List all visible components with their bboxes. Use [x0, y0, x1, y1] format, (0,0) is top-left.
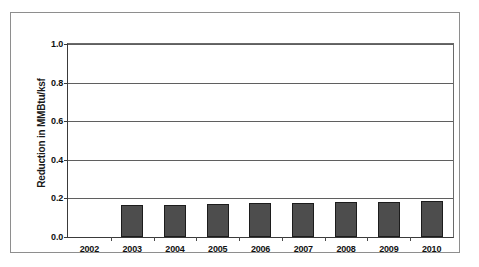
bar[interactable] [421, 201, 443, 237]
x-tick-mark [325, 237, 326, 241]
bar[interactable] [292, 203, 314, 237]
y-tick-label: 0.4 [51, 155, 63, 165]
bar-slot [410, 44, 453, 237]
bar-slot [68, 44, 111, 237]
bar-slot [367, 44, 410, 237]
bar-slot [282, 44, 325, 237]
bar[interactable] [207, 204, 229, 237]
x-tick-label: 2010 [422, 244, 441, 254]
bar-slot [154, 44, 197, 237]
x-tick-mark [410, 237, 411, 241]
x-tick-mark [111, 237, 112, 241]
x-tick-label: 2005 [208, 244, 227, 254]
x-tick-label: 2002 [80, 244, 99, 254]
y-tick-label: 0.8 [51, 78, 63, 88]
plot-area: 0.00.20.40.60.81.0 200220032004200520062… [67, 43, 454, 238]
bar-series [68, 44, 453, 237]
x-tick-mark [367, 237, 368, 241]
bar-slot [325, 44, 368, 237]
bar[interactable] [121, 205, 143, 237]
x-tick-mark [239, 237, 240, 241]
x-tick-mark [196, 237, 197, 241]
x-tick-label: 2008 [336, 244, 355, 254]
y-tick-label: 0.2 [51, 193, 63, 203]
bar[interactable] [378, 202, 400, 237]
bar[interactable] [249, 203, 271, 237]
bar-slot [196, 44, 239, 237]
x-tick-label: 2006 [251, 244, 270, 254]
y-tick-label: 1.0 [51, 39, 63, 49]
y-tick-label: 0.0 [51, 232, 63, 242]
x-tick-label: 2003 [123, 244, 142, 254]
figure-frame: Reduction in MMBtu/ksf 0.00.20.40.60.81.… [10, 12, 460, 253]
y-axis-title: Reduction in MMBtu/ksf [35, 33, 49, 233]
bar[interactable] [335, 202, 357, 237]
x-tick-label: 2007 [294, 244, 313, 254]
y-tick-mark [64, 237, 68, 238]
bar[interactable] [164, 205, 186, 237]
y-tick-label: 0.6 [51, 116, 63, 126]
x-tick-label: 2009 [379, 244, 398, 254]
x-tick-label: 2004 [165, 244, 184, 254]
bar-slot [239, 44, 282, 237]
x-tick-mark [282, 237, 283, 241]
bar-slot [111, 44, 154, 237]
x-tick-mark [154, 237, 155, 241]
